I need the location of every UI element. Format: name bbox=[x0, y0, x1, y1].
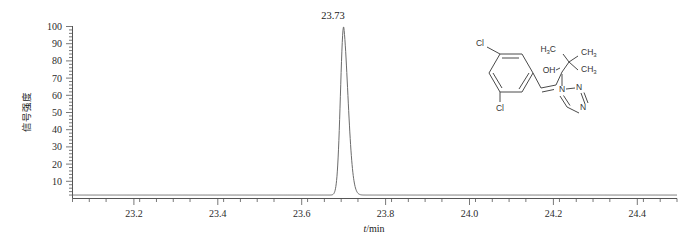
bond-vinyl-double-a bbox=[541, 85, 556, 88]
bond-vinyl-double-b bbox=[542, 90, 554, 93]
y-axis-ticks: 100 90 80 70 60 50 40 30 20 10 bbox=[47, 21, 73, 187]
x-tick-label: 24.0 bbox=[461, 208, 479, 219]
bond-ring-to-vinyl bbox=[533, 73, 541, 88]
y-tick-label: 90 bbox=[52, 38, 62, 49]
y-tick-label: 70 bbox=[52, 73, 62, 84]
peak-retention-time-label: 23.73 bbox=[321, 10, 345, 21]
atom-label-cl-bottom: Cl bbox=[496, 103, 504, 113]
y-tick-label: 30 bbox=[52, 141, 62, 152]
molecule-structure: Cl Cl OH H3C CH3 CH3 bbox=[476, 38, 597, 113]
atom-label-methyl-b: CH3 bbox=[581, 47, 597, 58]
triazole-ring: N N N bbox=[559, 82, 588, 113]
x-tick-label: 23.6 bbox=[293, 208, 311, 219]
bond-hydroxyl bbox=[556, 68, 560, 70]
atom-label-hydroxyl: OH bbox=[543, 65, 556, 75]
x-axis-title: t/min bbox=[363, 223, 384, 234]
y-tick-label: 10 bbox=[52, 176, 62, 187]
bond-methyl-a bbox=[563, 54, 569, 62]
bond-methyl-b bbox=[569, 56, 578, 62]
y-tick-label: 60 bbox=[52, 90, 62, 101]
atom-label-n2: N bbox=[576, 82, 582, 92]
y-tick-label: 50 bbox=[52, 107, 62, 118]
atom-label-methyl-a: H3C bbox=[540, 44, 556, 55]
y-tick-label: 100 bbox=[47, 21, 62, 32]
x-tick-label: 23.4 bbox=[209, 208, 227, 219]
y-tick-label: 80 bbox=[52, 55, 62, 66]
y-tick-label: 40 bbox=[52, 124, 62, 135]
x-axis-ticks: 23.2 23.4 23.6 23.8 24.0 24.2 24.4 bbox=[125, 199, 646, 220]
atom-label-methyl-c: CH3 bbox=[581, 64, 597, 75]
x-tick-label: 24.4 bbox=[629, 208, 647, 219]
chromatogram-svg: 100 90 80 70 60 50 40 30 20 10 bbox=[0, 0, 699, 243]
bond-cl-top bbox=[487, 47, 500, 54]
y-tick-label: 20 bbox=[52, 159, 62, 170]
atom-label-cl-top: Cl bbox=[476, 38, 484, 48]
atom-label-n1: N bbox=[559, 84, 565, 94]
x-tick-label: 23.8 bbox=[377, 208, 395, 219]
y-axis-title: 信号强度 bbox=[21, 92, 32, 132]
x-tick-label: 23.2 bbox=[125, 208, 143, 219]
bond-methyl-c bbox=[569, 62, 578, 70]
chromatogram-figure: 100 90 80 70 60 50 40 30 20 10 bbox=[0, 0, 699, 243]
x-tick-label: 24.2 bbox=[545, 208, 563, 219]
x-axis-minor-ticks bbox=[73, 199, 678, 203]
bond-to-tbutyl bbox=[562, 62, 569, 72]
dichlorophenyl-ring bbox=[489, 54, 533, 92]
